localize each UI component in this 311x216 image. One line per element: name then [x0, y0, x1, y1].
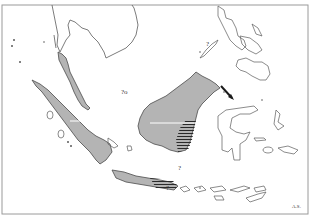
- seram: [278, 146, 298, 154]
- lesser-sunda-islands: [180, 186, 266, 192]
- simeulue: [47, 111, 53, 119]
- sula-islands: [254, 138, 266, 141]
- question-mark-java-south: ?: [166, 184, 169, 192]
- question-mark-south-china-sea: ?o: [121, 88, 128, 96]
- nias: [58, 130, 64, 138]
- sumatra: [32, 80, 112, 164]
- java-hatched-area: [150, 178, 178, 190]
- sulawesi: [218, 106, 258, 160]
- buru: [263, 147, 273, 153]
- visayas: [240, 24, 262, 54]
- timor: [246, 192, 266, 202]
- malay-coast-west: [54, 35, 56, 48]
- indochina-outline: [52, 5, 138, 58]
- belitung: [127, 146, 132, 151]
- malay-peninsula: [58, 52, 90, 110]
- halmahera: [274, 110, 284, 130]
- mindanao: [236, 58, 270, 80]
- question-mark-java-east: ?: [178, 164, 181, 172]
- map-canvas: [0, 0, 311, 216]
- question-mark-palawan: ?: [206, 40, 209, 48]
- corner-mark: A.S.: [292, 204, 301, 209]
- sumba: [214, 196, 224, 200]
